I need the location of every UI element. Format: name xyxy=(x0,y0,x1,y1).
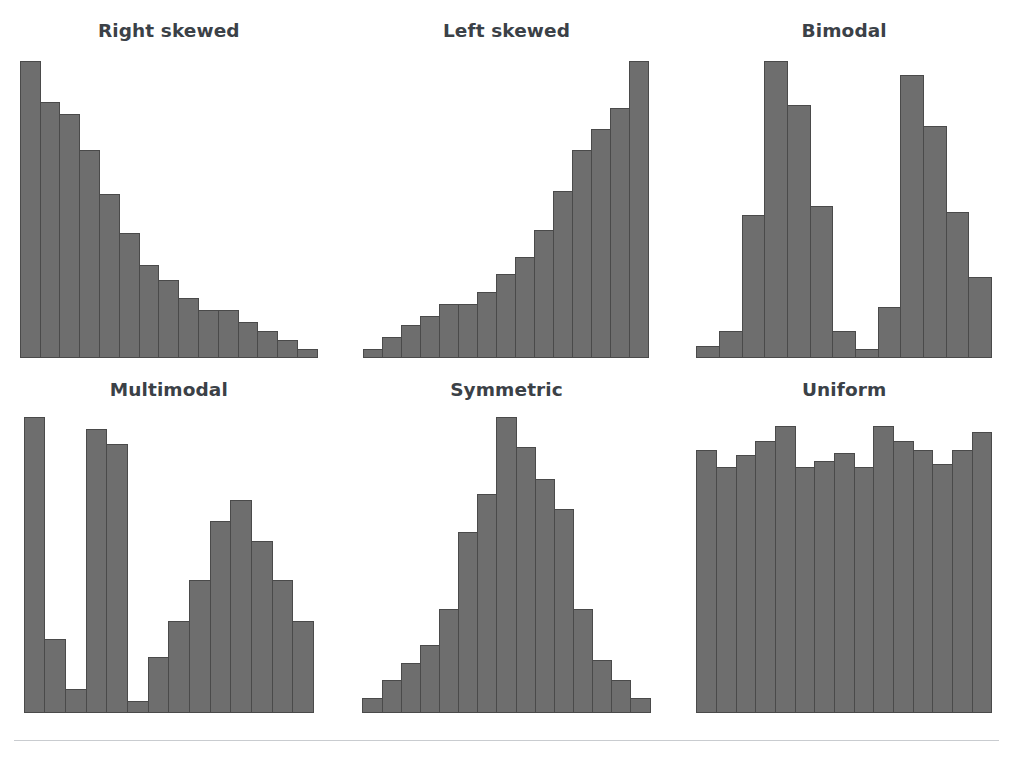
histogram-bar xyxy=(736,455,757,713)
histogram-bar xyxy=(458,532,478,713)
chart-left-skewed xyxy=(363,61,649,358)
histogram-bar xyxy=(477,292,497,357)
histogram-bar xyxy=(573,609,593,713)
histogram-bar xyxy=(139,265,160,357)
histogram-bar xyxy=(24,417,46,713)
panel-title-uniform: Uniform xyxy=(802,381,886,400)
histogram-bar xyxy=(40,102,61,357)
histogram-bar xyxy=(401,663,421,713)
histogram-bar xyxy=(834,453,855,713)
histogram-bar xyxy=(230,500,252,713)
histogram-bar xyxy=(20,61,41,358)
panel-right-skewed: Right skewed xyxy=(0,0,338,368)
histogram-bar xyxy=(832,331,856,358)
panel-bimodal: Bimodal xyxy=(675,0,1013,368)
panel-title-multimodal: Multimodal xyxy=(110,381,228,400)
panel-title-bimodal: Bimodal xyxy=(802,22,887,41)
panel-title-right-skewed: Right skewed xyxy=(98,22,240,41)
histogram-bar xyxy=(923,126,947,358)
histogram-bar xyxy=(148,657,170,713)
histogram-bar xyxy=(198,310,219,358)
histogram-bar xyxy=(272,580,294,713)
histogram-bar xyxy=(382,680,402,713)
panel-title-symmetric: Symmetric xyxy=(450,381,563,400)
chart-multimodal xyxy=(24,417,314,713)
histogram-bar xyxy=(59,114,80,358)
histogram-bar xyxy=(210,521,232,713)
histogram-bar xyxy=(810,206,834,357)
histogram-bar xyxy=(719,331,743,358)
chart-grid: Right skewed Left skewed Bimodal Multimo… xyxy=(0,0,1013,735)
histogram-bar xyxy=(611,680,631,713)
histogram-bar xyxy=(297,349,318,358)
histogram-bar xyxy=(787,105,811,357)
histogram-bar xyxy=(946,212,970,358)
histogram-bar xyxy=(742,215,766,358)
histogram-bar xyxy=(968,277,992,357)
histogram-bar xyxy=(251,541,273,713)
histogram-bar xyxy=(610,108,630,357)
histogram-bar xyxy=(554,509,574,713)
histogram-bar xyxy=(932,464,953,713)
histogram-bar xyxy=(913,450,934,713)
histogram-bar xyxy=(592,660,612,713)
histogram-bar xyxy=(218,310,239,358)
histogram-bar xyxy=(516,447,536,713)
histogram-bar xyxy=(420,645,440,713)
chart-bimodal xyxy=(696,61,992,358)
bottom-divider xyxy=(14,740,999,741)
panel-multimodal: Multimodal xyxy=(0,368,338,736)
histogram-bar xyxy=(878,307,902,357)
histogram-bar xyxy=(458,304,478,357)
histogram-bar xyxy=(382,337,402,358)
histogram-bar xyxy=(439,609,459,713)
histogram-bar xyxy=(477,494,497,713)
histogram-bar xyxy=(893,441,914,713)
histogram-bar xyxy=(553,191,573,357)
distribution-shapes-figure: Right skewed Left skewed Bimodal Multimo… xyxy=(0,0,1013,762)
histogram-bar xyxy=(873,426,894,713)
histogram-bar xyxy=(515,257,535,358)
histogram-bar xyxy=(158,280,179,357)
panel-title-left-skewed: Left skewed xyxy=(443,22,570,41)
histogram-bar xyxy=(119,233,140,358)
histogram-bar xyxy=(86,429,108,713)
histogram-bar xyxy=(65,689,87,713)
histogram-bar xyxy=(189,580,211,713)
histogram-bar xyxy=(106,444,128,713)
histogram-bar xyxy=(362,698,382,713)
histogram-bar xyxy=(814,461,835,713)
chart-uniform xyxy=(696,417,992,713)
panel-symmetric: Symmetric xyxy=(338,368,676,736)
histogram-bar xyxy=(496,417,516,713)
histogram-bar xyxy=(764,61,788,358)
histogram-bar xyxy=(401,325,421,358)
histogram-bar xyxy=(238,322,259,358)
histogram-bar xyxy=(257,331,278,358)
histogram-bar xyxy=(591,129,611,358)
histogram-bar xyxy=(277,340,298,358)
histogram-bar xyxy=(535,479,555,713)
histogram-bar xyxy=(168,621,190,713)
histogram-bar xyxy=(696,450,717,713)
histogram-bar xyxy=(99,194,120,357)
histogram-bar xyxy=(363,349,383,358)
histogram-bar xyxy=(79,150,100,358)
histogram-bar xyxy=(439,304,459,357)
histogram-bar xyxy=(755,441,776,713)
histogram-bar xyxy=(795,467,816,713)
histogram-bar xyxy=(496,274,516,357)
chart-symmetric xyxy=(362,417,650,713)
histogram-bar xyxy=(900,75,924,357)
histogram-bar xyxy=(696,346,720,358)
histogram-bar xyxy=(127,701,149,713)
histogram-bar xyxy=(292,621,314,713)
histogram-bar xyxy=(854,467,875,713)
histogram-bar xyxy=(534,230,554,358)
histogram-bar xyxy=(178,298,199,357)
histogram-bar xyxy=(775,426,796,713)
histogram-bar xyxy=(972,432,993,713)
histogram-bar xyxy=(630,698,650,713)
histogram-bar xyxy=(420,316,440,358)
histogram-bar xyxy=(855,349,879,358)
